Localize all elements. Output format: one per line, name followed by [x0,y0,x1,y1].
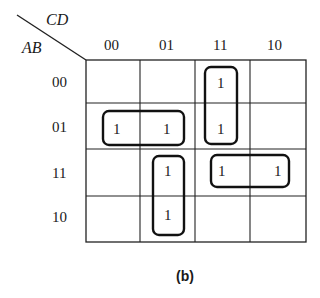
col-header-11: 11 [213,38,227,53]
cell-r11-c01: 1 [164,164,172,179]
col-header-01: 01 [159,38,174,53]
col-header-00: 00 [104,38,119,53]
figure-caption: (b) [176,268,194,284]
col-variable-label: CD [46,12,68,28]
cell-r01-c11: 1 [217,122,225,137]
cell-r01-c01: 1 [163,122,171,137]
col-header-10: 10 [267,38,282,53]
cell-r11-c10: 1 [274,164,282,179]
cell-r00-c11: 1 [217,76,225,91]
cell-r11-c11: 1 [218,164,226,179]
row-header-11: 11 [52,166,66,181]
row-variable-label: AB [22,40,42,56]
grid-border [86,60,306,242]
row-header-00: 00 [52,75,67,90]
cell-r01-c00: 1 [113,122,121,137]
row-header-01: 01 [52,120,67,135]
cell-r10-c01: 1 [164,208,172,223]
row-header-10: 10 [52,210,67,225]
